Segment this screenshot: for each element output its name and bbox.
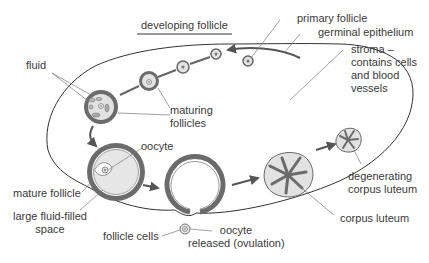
developing-follicle-1 [211,49,221,59]
label-stroma-line4: vessels [351,82,417,95]
label-corpus-luteum: corpus luteum [340,212,409,225]
label-large-space-line1: large fluid-filled [12,210,88,223]
label-developing-follicle: developing follicle [141,19,228,32]
label-released-line2: released (ovulation) [188,237,284,250]
maturing-follicle-small [139,71,159,91]
arrow-to-degenerating [316,144,335,150]
maturing-follicle-large [84,90,118,124]
label-released-oocyte: oocyte released (ovulation) [188,224,284,250]
label-degenerating-corpus-luteum: degenerating corpus luteum [348,170,417,196]
ovary-diagram: developing follicle primary follicle ger… [0,0,429,263]
developing-follicle-2 [177,61,189,73]
label-degenerating-line1: degenerating [348,170,417,183]
label-large-space: large fluid-filled space [12,210,88,236]
label-maturing-line2: follicles [170,117,213,130]
arrow-to-mature [90,126,96,146]
label-stroma-line3: and blood [351,69,417,82]
label-follicle-cells: follicle cells [103,230,159,243]
arrow-to-ovulation [143,185,158,188]
ovulating-follicle [167,156,223,212]
label-degenerating-line2: corpus luteum [348,183,417,196]
label-oocyte: oocyte [141,140,173,153]
label-germinal-epithelium: germinal epithelium [318,26,413,39]
arrow-to-corpus-luteum [232,178,258,185]
label-mature-follicle: mature follicle [13,187,81,200]
label-primary-follicle: primary follicle [297,12,367,25]
germinal-arrow [228,48,300,58]
label-large-space-line2: space [12,223,88,236]
label-fluid: fluid [26,59,46,72]
label-released-line1: oocyte [188,224,284,237]
label-stroma-line1: stroma – [351,43,417,56]
label-stroma-line2: contains cells [351,56,417,69]
label-maturing-line1: maturing [170,104,213,117]
label-maturing-follicles: maturing follicles [170,104,213,130]
corpus-luteum [264,153,313,197]
degenerating-corpus-luteum [336,128,361,152]
label-stroma: stroma – contains cells and blood vessel… [351,43,417,95]
